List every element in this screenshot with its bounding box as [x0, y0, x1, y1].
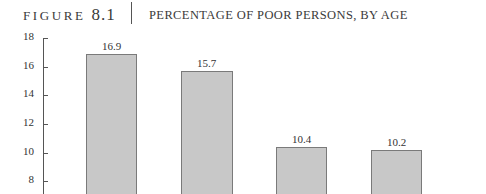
y-tick-label: 16	[14, 59, 34, 71]
y-tick-label: 14	[14, 87, 34, 99]
y-tick-label: 8	[14, 173, 34, 185]
chart-title: PERCENTAGE OF POOR PERSONS, BY AGE	[149, 8, 408, 23]
y-tick-label: 18	[14, 30, 34, 42]
bar	[371, 150, 422, 194]
y-tick-label: 12	[14, 116, 34, 128]
bar-value-label: 16.9	[86, 40, 137, 52]
bar	[276, 147, 327, 194]
y-tick	[43, 181, 48, 182]
y-tick	[43, 153, 48, 154]
y-tick	[43, 38, 48, 39]
figure-label: FIGURE 8.1	[23, 5, 116, 25]
bar	[181, 71, 233, 194]
y-tick-label: 10	[14, 145, 34, 157]
bar-value-label: 15.7	[181, 57, 232, 69]
heading-divider	[131, 2, 132, 24]
bar	[86, 54, 137, 194]
y-tick	[43, 124, 48, 125]
figure-label-text: FIGURE	[23, 8, 86, 23]
y-tick	[43, 67, 48, 68]
bar-value-label: 10.2	[371, 136, 422, 148]
y-axis	[43, 38, 44, 194]
y-tick	[43, 95, 48, 96]
figure-number: 8.1	[91, 5, 115, 24]
bar-value-label: 10.4	[276, 133, 327, 145]
